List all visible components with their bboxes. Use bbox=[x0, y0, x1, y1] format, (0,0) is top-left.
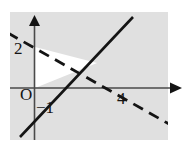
x-intercept-label-4: 4 bbox=[117, 90, 126, 107]
coordinate-graph-figure: 2 O −1 4 bbox=[0, 0, 192, 149]
graph-canvas bbox=[0, 0, 192, 149]
origin-label: O bbox=[20, 86, 32, 103]
x-axis-arrowhead bbox=[170, 83, 182, 94]
x-intercept-label-negative-one: −1 bbox=[36, 99, 54, 116]
y-intercept-label-2: 2 bbox=[14, 40, 23, 57]
